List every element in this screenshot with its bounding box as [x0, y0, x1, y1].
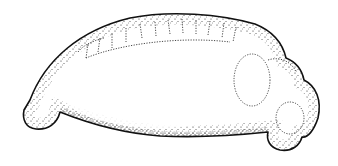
embryo-body: [0, 0, 338, 166]
embryo-illustration: [0, 0, 338, 166]
